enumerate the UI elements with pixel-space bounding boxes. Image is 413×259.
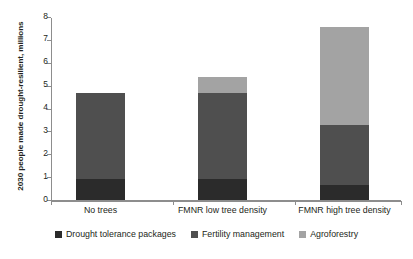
x-axis-label-fmnr-low-tree-density: FMNR low tree density [153, 206, 293, 215]
x-axis-label-fmnr-high-tree-density: FMNR high tree density [275, 206, 413, 215]
bar-segment-drought-tolerance-packages [320, 185, 369, 200]
y-axis-tick-label-4: 4 [43, 103, 48, 111]
legend-swatch-icon-fertility-management [191, 231, 198, 238]
bar-segment-agroforestry [198, 77, 247, 93]
legend-label-fertility-management: Fertility management [202, 230, 284, 239]
x-axis-tick-1 [173, 201, 174, 205]
bar-segment-drought-tolerance-packages [76, 179, 125, 200]
y-axis-tick-label-7: 7 [43, 34, 48, 42]
y-axis-tick-label-5: 5 [43, 80, 48, 88]
bar-segment-fertility-management [198, 93, 247, 180]
y-axis-tick-label-6: 6 [43, 57, 48, 65]
legend-label-drought-tolerance-packages: Drought tolerance packages [66, 230, 176, 239]
legend-item-drought-tolerance-packages: Drought tolerance packages [55, 230, 176, 239]
y-axis-tick-label-2: 2 [43, 149, 48, 157]
legend-label-agroforestry: Agroforestry [310, 230, 358, 239]
legend-item-fertility-management: Fertility management [191, 230, 284, 239]
bar-fmnr-high-tree-density [320, 27, 369, 200]
bars-layer [51, 14, 401, 201]
plot-area: 012345678 No treesFMNR low tree densityF… [51, 14, 401, 201]
y-axis-tick-label-1: 1 [43, 172, 48, 180]
x-axis-tick-2 [295, 201, 296, 205]
legend-swatch-icon-drought-tolerance-packages [55, 231, 62, 238]
y-axis-tick-label-3: 3 [43, 126, 48, 134]
bar-segment-fertility-management [76, 93, 125, 180]
y-axis-tick-label-8: 8 [43, 12, 48, 20]
legend-swatch-icon-agroforestry [299, 231, 306, 238]
bar-segment-agroforestry [320, 27, 369, 124]
bar-no-trees [76, 93, 125, 201]
x-axis-label-no-trees: No trees [31, 206, 171, 215]
x-axis-tick-0 [51, 201, 52, 205]
y-axis-title: 2030 people made drought-resilient, mill… [17, 6, 25, 206]
legend-item-agroforestry: Agroforestry [299, 230, 358, 239]
x-axis-tick-3 [401, 201, 402, 205]
bar-segment-drought-tolerance-packages [198, 179, 247, 200]
chart-legend: Drought tolerance packages Fertility man… [0, 230, 413, 239]
stacked-bar-chart: 2030 people made drought-resilient, mill… [0, 0, 413, 259]
bar-fmnr-low-tree-density [198, 77, 247, 201]
bar-segment-fertility-management [320, 125, 369, 186]
y-axis-tick-label-0: 0 [43, 195, 48, 203]
